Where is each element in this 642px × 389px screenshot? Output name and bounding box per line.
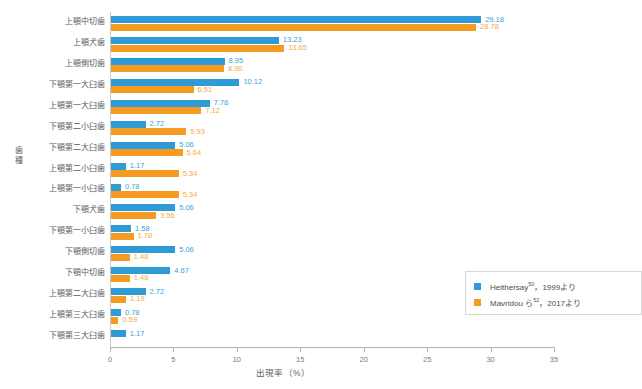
bar-series-b xyxy=(111,296,126,303)
plot-area: 05101520253035 上顎中切歯29.1828.78上顎犬歯13.231… xyxy=(110,12,554,347)
bar-value-label: 1.17 xyxy=(130,329,145,338)
category-label: 上顎第一小臼歯 xyxy=(0,184,105,194)
bar-value-label: 5.34 xyxy=(183,190,198,199)
bar-value-label: 0.78 xyxy=(125,182,140,191)
legend-item-mavridou: Mavridou ら52，2017より xyxy=(474,294,641,310)
category-label: 上顎第一大臼歯 xyxy=(0,101,105,111)
x-tick-mark xyxy=(364,347,365,352)
chart-legend: Heithersay50，1999より Mavridou ら52，2017より xyxy=(465,271,642,315)
bar-series-a xyxy=(111,163,126,170)
bar-series-b xyxy=(111,24,476,31)
bar-row: 下顎犬歯5.063.56 xyxy=(110,200,554,221)
x-tick-mark xyxy=(300,347,301,352)
bar-series-a xyxy=(111,184,121,191)
bar-series-a xyxy=(111,37,279,44)
bar-value-label: 1.48 xyxy=(134,274,149,283)
bar-series-a xyxy=(111,100,210,107)
bar-series-b xyxy=(111,128,186,135)
bar-series-b xyxy=(111,317,118,324)
category-label: 下顎中切歯 xyxy=(0,268,105,278)
x-tick-label: 35 xyxy=(550,355,558,364)
x-tick-mark xyxy=(110,347,111,352)
category-label: 下顎第一小臼歯 xyxy=(0,226,105,236)
bar-series-a xyxy=(111,79,239,86)
bar-series-b xyxy=(111,45,284,52)
category-label: 上顎第二大臼歯 xyxy=(0,289,105,299)
bar-value-label: 5.34 xyxy=(183,169,198,178)
x-axis-title: 出現率（%） xyxy=(0,366,566,378)
category-label: 下顎第二大臼歯 xyxy=(0,143,105,153)
bar-value-label: 1.17 xyxy=(130,161,145,170)
bar-value-label: 2.72 xyxy=(150,120,165,129)
x-tick-mark xyxy=(427,347,428,352)
category-label: 下顎第三大臼歯 xyxy=(0,331,105,341)
bar-row: 下顎第一大臼歯10.126.51 xyxy=(110,75,554,96)
bar-value-label: 6.51 xyxy=(198,85,213,94)
bar-series-a xyxy=(111,58,225,65)
category-label: 上顎中切歯 xyxy=(0,17,105,27)
bar-series-b xyxy=(111,149,183,156)
bar-value-label: 3.56 xyxy=(160,211,175,220)
bar-series-b xyxy=(111,65,224,72)
x-tick-mark xyxy=(237,347,238,352)
bar-row: 上顎中切歯29.1828.78 xyxy=(110,12,554,33)
bar-value-label: 1.48 xyxy=(134,253,149,262)
bar-value-label: 13.65 xyxy=(288,43,307,52)
x-tick-label: 5 xyxy=(171,355,175,364)
bar-series-b xyxy=(111,212,156,219)
bar-series-b xyxy=(111,275,130,282)
bar-series-a xyxy=(111,16,481,23)
category-label: 下顎犬歯 xyxy=(0,205,105,215)
bar-row: 上顎側切歯8.958.90 xyxy=(110,54,554,75)
bar-row: 上顎第二小臼歯1.175.34 xyxy=(110,159,554,180)
legend-label: Mavridou ら52，2017より xyxy=(490,297,581,308)
bar-value-label: 4.67 xyxy=(174,266,189,275)
x-axis-line xyxy=(110,347,554,348)
category-label: 下顎第一大臼歯 xyxy=(0,80,105,90)
bar-series-a xyxy=(111,309,121,316)
bar-value-label: 8.90 xyxy=(228,64,243,73)
legend-label: Heithersay50，1999より xyxy=(490,281,576,292)
x-tick-mark xyxy=(173,347,174,352)
bar-series-a xyxy=(111,330,126,337)
x-tick-label: 25 xyxy=(423,355,431,364)
x-tick-mark xyxy=(491,347,492,352)
bar-series-b xyxy=(111,191,179,198)
x-tick-label: 15 xyxy=(296,355,304,364)
bar-value-label: 10.12 xyxy=(243,78,262,87)
bar-value-label: 7.12 xyxy=(205,106,220,115)
x-tick-mark xyxy=(554,347,555,352)
category-label: 上顎側切歯 xyxy=(0,59,105,69)
bar-series-b xyxy=(111,107,201,114)
x-tick-label: 20 xyxy=(360,355,368,364)
bar-row: 下顎第三大臼歯1.17 xyxy=(110,326,554,347)
bar-series-b xyxy=(111,170,179,177)
category-label: 下顎第二小臼歯 xyxy=(0,122,105,132)
legend-swatch-icon xyxy=(474,299,481,306)
bar-value-label: 5.06 xyxy=(179,203,194,212)
bar-row: 下顎第二大臼歯5.065.64 xyxy=(110,138,554,159)
bar-value-label: 5.06 xyxy=(179,245,194,254)
bar-value-label: 5.93 xyxy=(190,127,205,136)
x-tick-label: 0 xyxy=(108,355,112,364)
bar-row: 下顎第二小臼歯2.725.93 xyxy=(110,117,554,138)
bar-series-b xyxy=(111,233,134,240)
legend-swatch-icon xyxy=(474,283,481,290)
bar-row: 上顎第一大臼歯7.787.12 xyxy=(110,96,554,117)
bar-value-label: 2.72 xyxy=(150,287,165,296)
bar-row: 上顎第一小臼歯0.785.34 xyxy=(110,180,554,201)
category-label: 上顎第三大臼歯 xyxy=(0,310,105,320)
x-tick-label: 10 xyxy=(233,355,241,364)
x-tick-label: 30 xyxy=(486,355,494,364)
bar-value-label: 28.78 xyxy=(480,22,499,31)
legend-item-heithersay: Heithersay50，1999より xyxy=(474,278,641,294)
bar-row: 上顎犬歯13.2313.65 xyxy=(110,33,554,54)
bar-series-a xyxy=(111,142,175,149)
bar-series-b xyxy=(111,86,194,93)
bar-value-label: 1.78 xyxy=(138,232,153,241)
bar-row: 下顎側切歯5.061.48 xyxy=(110,242,554,263)
category-label: 下顎側切歯 xyxy=(0,247,105,257)
bar-value-label: 0.59 xyxy=(122,316,137,325)
bar-series-b xyxy=(111,254,130,261)
